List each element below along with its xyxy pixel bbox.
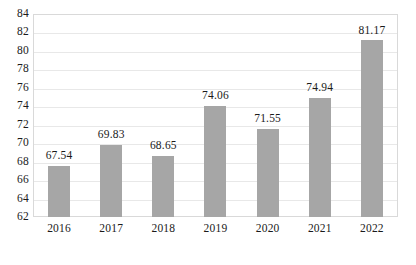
- y-axis-tick-label: 70: [0, 137, 29, 149]
- x-axis-tick-label: 2018: [151, 221, 175, 235]
- bar[interactable]: [257, 129, 279, 217]
- bar-chart: 848280787674727068666462 67.5469.8368.65…: [0, 0, 416, 265]
- bar[interactable]: [152, 156, 174, 217]
- bar-group: 81.17: [346, 14, 398, 217]
- x-axis: 2016201720182019202020212022: [33, 221, 398, 239]
- bar-group: 74.06: [189, 14, 241, 217]
- y-axis-tick-label: 66: [0, 174, 29, 186]
- bar[interactable]: [100, 145, 122, 217]
- y-axis-tick-label: 68: [0, 156, 29, 168]
- bar-group: 68.65: [137, 14, 189, 217]
- x-axis-tick-label: 2017: [99, 221, 123, 235]
- bar-value-label: 74.06: [202, 90, 229, 102]
- x-axis-tick-label: 2021: [308, 221, 332, 235]
- x-axis-tick-label: 2022: [360, 221, 384, 235]
- y-axis-tick-label: 72: [0, 119, 29, 131]
- bar[interactable]: [361, 40, 383, 217]
- bar-group: 71.55: [242, 14, 294, 217]
- bar-group: 67.54: [33, 14, 85, 217]
- y-axis-tick-label: 84: [0, 8, 29, 20]
- bar-value-label: 71.55: [254, 113, 281, 125]
- x-axis-tick-label: 2016: [47, 221, 71, 235]
- bar[interactable]: [309, 98, 331, 217]
- y-axis-tick-label: 74: [0, 101, 29, 113]
- x-axis-tick-label: 2019: [204, 221, 228, 235]
- bar-group: 69.83: [85, 14, 137, 217]
- y-axis-tick-label: 62: [0, 211, 29, 223]
- y-axis-tick-label: 82: [0, 27, 29, 39]
- bar-value-label: 74.94: [306, 82, 333, 94]
- bar-value-label: 68.65: [150, 140, 177, 152]
- bar-value-label: 69.83: [98, 129, 125, 141]
- bar-value-label: 67.54: [46, 150, 73, 162]
- bar[interactable]: [48, 166, 70, 217]
- y-axis-tick-label: 64: [0, 193, 29, 205]
- y-axis-tick-label: 76: [0, 82, 29, 94]
- x-axis-tick-label: 2020: [256, 221, 280, 235]
- bar[interactable]: [204, 106, 226, 217]
- bar-value-label: 81.17: [358, 25, 385, 37]
- y-axis: 848280787674727068666462: [0, 14, 29, 217]
- y-axis-tick-label: 80: [0, 45, 29, 57]
- bars-layer: 67.5469.8368.6574.0671.5574.9481.17: [33, 14, 398, 217]
- y-axis-tick-label: 78: [0, 64, 29, 76]
- bar-group: 74.94: [294, 14, 346, 217]
